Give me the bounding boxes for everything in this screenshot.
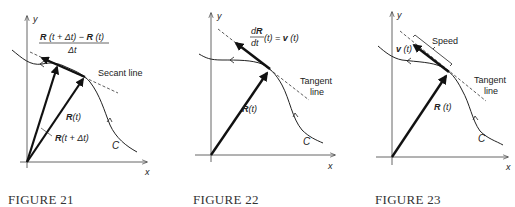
figure-22-caption: FIGURE 22	[193, 192, 259, 207]
tangent-line-label: Tangent	[300, 76, 333, 86]
figures-canvas: y x R (t + Δt) − R (t) Δt Secant line R(…	[0, 0, 515, 207]
figure-21-caption: FIGURE 21	[8, 192, 74, 207]
figure-22: y x dR dt (t) = v (t) Tangent line R(t) …	[195, 11, 335, 171]
vector-r-t-plus-dt-label: R(t + Δt)	[55, 133, 89, 143]
x-axis-label: x	[505, 162, 511, 172]
figure-23: y x Speed v (t) Tangent line R (t) C	[376, 10, 511, 172]
speed-label: Speed	[432, 36, 458, 46]
curve-c-label: C	[478, 133, 486, 144]
derivative-numerator: dR	[251, 26, 263, 36]
y-axis-label: y	[396, 10, 402, 20]
velocity-vector	[414, 45, 449, 72]
tangent-line-label: Tangent	[474, 75, 507, 85]
derivative-equals-velocity: (t) = v (t)	[264, 33, 299, 43]
tangent-line-label-2: line	[484, 86, 498, 96]
vector-r-t	[211, 73, 267, 155]
tangent-line-label-2: line	[310, 87, 324, 97]
derivative-denominator: dt	[251, 38, 259, 48]
secant-line-label: Secant line	[98, 68, 143, 78]
quotient-denominator: Δt	[67, 45, 77, 55]
vector-r-t-plus-dt	[27, 67, 57, 162]
figure-21: y x R (t + Δt) − R (t) Δt Secant line R(…	[12, 14, 150, 177]
curve-c-label: C	[303, 136, 311, 147]
vector-r-t-label: R(t)	[242, 104, 257, 114]
curve-c	[199, 54, 323, 143]
y-axis-label: y	[32, 14, 38, 24]
curve-c-label: C	[112, 140, 120, 151]
velocity-label: v (t)	[396, 44, 412, 54]
vector-r-t	[392, 76, 446, 157]
figure-23-caption: FIGURE 23	[375, 192, 441, 207]
x-axis-label: x	[144, 167, 150, 177]
y-axis-label: y	[216, 11, 222, 21]
vector-r-t-label: R(t)	[66, 112, 81, 122]
quotient-numerator: R (t + Δt) − R (t)	[40, 32, 104, 42]
curve-direction-arrow	[293, 113, 298, 117]
vector-r-t-label: R (t)	[434, 102, 452, 112]
difference-vector	[42, 58, 85, 77]
x-axis-label: x	[327, 161, 333, 171]
